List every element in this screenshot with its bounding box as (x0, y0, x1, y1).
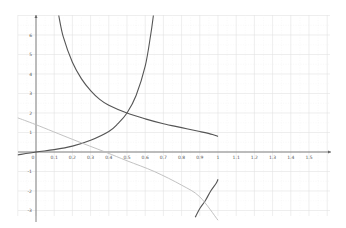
x-tick-label: 1 (217, 155, 220, 160)
x-tick-label: 0.3 (87, 155, 94, 160)
x-tick-label: 0.8 (178, 155, 185, 160)
y-tick-label: 2 (29, 111, 32, 116)
y-tick-label: 4 (29, 72, 32, 77)
x-tick-label: 0.5 (123, 155, 130, 160)
grid-lines (18, 15, 330, 216)
x-tick-label: 1.5 (305, 155, 312, 160)
x-axis-arrow-icon (328, 151, 331, 154)
x-tick-label: 1.2 (251, 155, 258, 160)
x-tick-label: 0.6 (142, 155, 149, 160)
y-tick-label: -1 (28, 169, 33, 174)
y-tick-label: 3 (29, 91, 32, 96)
y-tick-label: -2 (28, 189, 33, 194)
y-tick-label: 5 (29, 52, 32, 57)
y-tick-label: -3 (28, 208, 33, 213)
x-tick-label: 0.7 (160, 155, 167, 160)
x-tick-label: 0.9 (196, 155, 203, 160)
x-tick-labels: 00.10.20.30.40.50.60.70.80.911.11.21.31.… (32, 155, 313, 160)
y-tick-label: 6 (29, 33, 32, 38)
lower-branch-curve (195, 179, 218, 217)
x-tick-label: 0.4 (105, 155, 112, 160)
y-tick-label: 1 (29, 130, 32, 135)
x-tick-label: 0.2 (69, 155, 76, 160)
function-plot: 00.10.20.30.40.50.60.70.80.911.11.21.31.… (0, 0, 346, 228)
decreasing-curve (59, 16, 218, 137)
x-tick-label: 1.4 (287, 155, 294, 160)
x-tick-label: 1.1 (233, 155, 240, 160)
x-tick-label: 0 (32, 155, 35, 160)
x-tick-label: 0.1 (51, 155, 58, 160)
x-tick-label: 1.3 (269, 155, 276, 160)
